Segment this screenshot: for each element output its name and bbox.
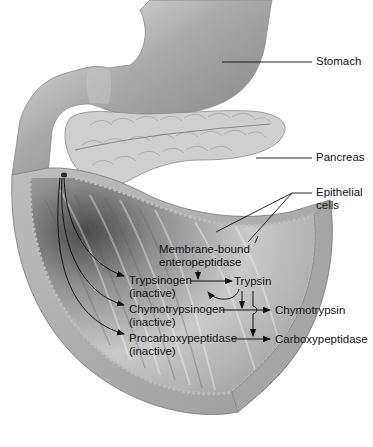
trypsinogen-inactive-label: (inactive) bbox=[129, 287, 176, 300]
trypsin-label: Trypsin bbox=[234, 275, 271, 288]
procarboxypeptidase-inactive-label: (inactive) bbox=[129, 345, 176, 358]
epithelial-label-line2: cells bbox=[316, 199, 339, 212]
pancreas-illustration bbox=[65, 111, 285, 186]
enteropeptidase-label-line2: enteropeptidase bbox=[159, 256, 241, 269]
stomach-label: Stomach bbox=[316, 55, 361, 68]
chymotrypsinogen-label: Chymotrypsinogen bbox=[129, 303, 225, 316]
carboxypeptidase-label: Carboxypeptidase bbox=[275, 333, 368, 346]
chymotrypsinogen-inactive-label: (inactive) bbox=[129, 316, 176, 329]
procarboxypeptidase-label: Procarboxypeptidase bbox=[129, 332, 237, 345]
pancreas-label: Pancreas bbox=[316, 151, 365, 164]
trypsinogen-label: Trypsinogen bbox=[129, 274, 192, 287]
chymotrypsin-label: Chymotrypsin bbox=[275, 304, 345, 317]
enteropeptidase-label-line1: Membrane-bound bbox=[159, 243, 250, 256]
epithelial-label-line1: Epithelial bbox=[316, 186, 363, 199]
